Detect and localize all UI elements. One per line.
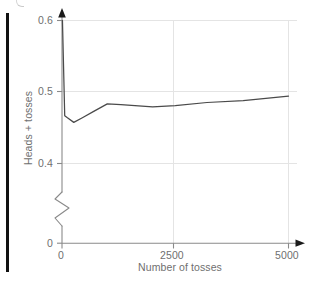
x-axis-arrowhead <box>296 240 306 247</box>
x-tick-label-2500: 2500 <box>160 249 184 261</box>
y-tick-label-0.6: 0.6 <box>27 14 53 26</box>
x-tick-label-0: 0 <box>58 249 64 261</box>
y-axis-title: Heads + tosses <box>22 91 34 165</box>
line-chart-figure: 0.6 0.5 0.4 0 0 2500 5000 Heads + tosses… <box>0 0 312 285</box>
x-tick-label-5000: 5000 <box>275 249 299 261</box>
gridlines-horizontal <box>62 21 297 164</box>
y-axis <box>55 16 69 243</box>
y-axis-break-zigzag <box>55 192 69 226</box>
y-axis-arrowhead <box>58 8 66 18</box>
x-axis-title: Number of tosses <box>0 261 312 273</box>
y-tick-marks <box>57 21 62 244</box>
x-tick-marks <box>62 243 289 248</box>
gridlines-vertical <box>174 20 289 243</box>
data-series-line <box>62 21 288 123</box>
y-tick-label-0: 0 <box>27 237 53 249</box>
